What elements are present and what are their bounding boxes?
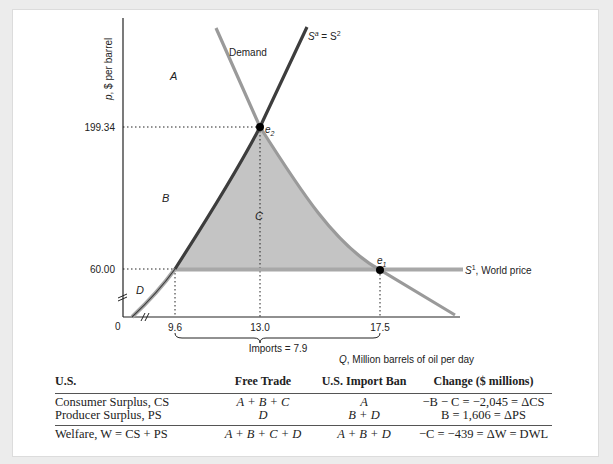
supply-demand-chart: p, $ per barrel Demand Sa = S2 S1, World…: [0, 0, 613, 370]
supply-autarky-label: Sa = S2: [308, 30, 341, 42]
world-price-label: S1, World price: [465, 264, 532, 276]
region-c-label: C: [255, 210, 263, 222]
y-tick-199: 199.34: [84, 122, 115, 133]
x-tick-17-5: 17.5: [370, 322, 390, 333]
region-a-label: A: [169, 70, 177, 82]
header-import-ban: U.S. Import Ban: [313, 373, 415, 390]
x-tick-9-6: 9.6: [168, 322, 182, 333]
e1-label: e1: [377, 255, 387, 268]
table-rule: [55, 393, 552, 394]
region-b-label: B: [162, 192, 169, 204]
x-tick-13: 13.0: [250, 322, 270, 333]
y-axis-label: p, $ per barrel: [103, 38, 114, 101]
x-tick-0: 0: [115, 321, 121, 332]
header-us: U.S.: [55, 373, 213, 390]
equilibrium-point-e2: [256, 123, 264, 131]
header-change: Change ($ millions): [415, 373, 552, 390]
table-row: Producer Surplus, PS D B + D B = 1,606 =…: [55, 409, 552, 422]
header-free-trade: Free Trade: [213, 373, 313, 390]
x-axis-label: Q, Million barrels of oil per day: [339, 354, 474, 365]
imports-label: Imports = 7.9: [249, 343, 308, 354]
region-d-label: D: [136, 284, 144, 296]
welfare-table: U.S. Free Trade U.S. Import Ban Change (…: [55, 373, 552, 441]
imports-brace: [175, 333, 380, 343]
table-row: Welfare, W = CS + PS A + B + C + D A + B…: [55, 428, 552, 441]
table-rule: [55, 425, 552, 426]
demand-label: Demand: [229, 47, 267, 58]
table-header: U.S. Free Trade U.S. Import Ban Change (…: [55, 373, 552, 390]
y-tick-60: 60.00: [90, 264, 115, 275]
